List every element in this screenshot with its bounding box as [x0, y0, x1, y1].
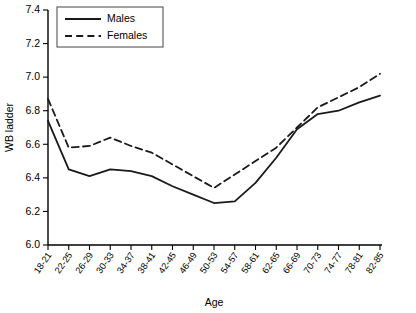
y-tick-label: 7.4	[25, 3, 40, 15]
y-axis-title: WB ladder	[3, 102, 15, 152]
x-tick-label: 58-61	[239, 250, 261, 275]
series-line-females	[48, 74, 380, 188]
x-tick-label: 38-41	[136, 250, 158, 275]
legend-label-males: Males	[107, 12, 135, 24]
y-tick-label: 6.8	[25, 104, 40, 116]
x-tick-label: 82-85	[364, 250, 386, 275]
y-tick-label: 6.2	[25, 205, 40, 217]
chart-canvas: 6.06.26.46.66.87.07.27.418-2122-2526-293…	[0, 0, 416, 313]
y-tick-label: 7.0	[25, 70, 40, 82]
y-tick-label: 6.0	[25, 238, 40, 250]
x-tick-label: 74-77	[322, 250, 344, 275]
x-tick-label: 62-65	[260, 250, 282, 275]
x-axis-title: Age	[205, 296, 224, 308]
y-tick-label: 7.2	[25, 37, 40, 49]
x-tick-label: 70-73	[302, 250, 324, 275]
x-tick-label: 26-29	[73, 250, 95, 275]
series-line-males	[48, 96, 380, 203]
x-tick-label: 66-69	[281, 250, 303, 275]
y-tick-label: 6.4	[25, 171, 40, 183]
x-tick-label: 18-21	[32, 250, 54, 275]
x-tick-label: 30-33	[94, 250, 116, 275]
x-tick-label: 54-57	[219, 250, 241, 275]
x-tick-label: 46-49	[177, 250, 199, 275]
x-tick-label: 78-81	[343, 250, 365, 275]
y-tick-label: 6.6	[25, 138, 40, 150]
x-tick-label: 34-37	[115, 250, 137, 275]
legend-label-females: Females	[107, 29, 147, 41]
x-tick-label: 42-45	[156, 250, 178, 275]
x-tick-label: 22-25	[53, 250, 75, 275]
wb-ladder-by-age-chart: 6.06.26.46.66.87.07.27.418-2122-2526-293…	[0, 0, 416, 313]
x-tick-label: 50-53	[198, 250, 220, 275]
